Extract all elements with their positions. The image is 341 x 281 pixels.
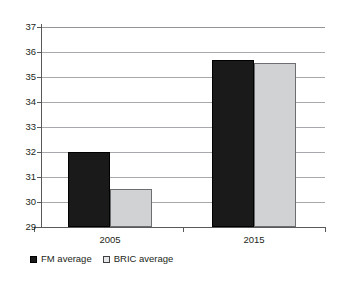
y-axis-tick — [37, 227, 42, 228]
bars-layer — [42, 27, 325, 227]
filled-square-marker-icon — [30, 256, 37, 263]
legend-entry-bric-average: BRIC average — [103, 254, 174, 264]
x-axis-tick — [183, 228, 184, 232]
y-tick-label-35: 35 — [2, 72, 36, 82]
y-tick-label-34: 34 — [2, 97, 36, 107]
bar-2015-bric-average — [254, 63, 296, 227]
y-tick-label-32: 32 — [2, 147, 36, 157]
bar-2005-fm-average — [68, 152, 110, 227]
x-category-label-2015: 2015 — [212, 235, 296, 245]
legend-label-fm-average: FM average — [41, 254, 92, 264]
outlined-square-marker-icon — [103, 256, 110, 263]
legend-entry-fm-average: FM average — [30, 254, 92, 264]
y-tick-label-37: 37 — [2, 22, 36, 32]
y-tick-label-29: 29 — [2, 222, 36, 232]
y-tick-label-30: 30 — [2, 197, 36, 207]
y-tick-label-36: 36 — [2, 47, 36, 57]
y-tick-label-31: 31 — [2, 172, 36, 182]
chart-legend: FM average BRIC average — [30, 254, 173, 264]
y-tick-label-33: 33 — [2, 122, 36, 132]
x-axis-tick — [325, 228, 326, 232]
bar-2015-fm-average — [212, 60, 254, 227]
bar-2005-bric-average — [110, 189, 152, 227]
x-axis-line — [34, 227, 326, 228]
x-category-label-2005: 2005 — [68, 235, 152, 245]
y-axis-tick-labels: 37 36 35 34 33 32 31 30 29 — [0, 0, 36, 281]
bar-chart: 37 36 35 34 33 32 31 30 29 2005 2015 FM … — [0, 0, 341, 281]
legend-label-bric-average: BRIC average — [114, 254, 174, 264]
